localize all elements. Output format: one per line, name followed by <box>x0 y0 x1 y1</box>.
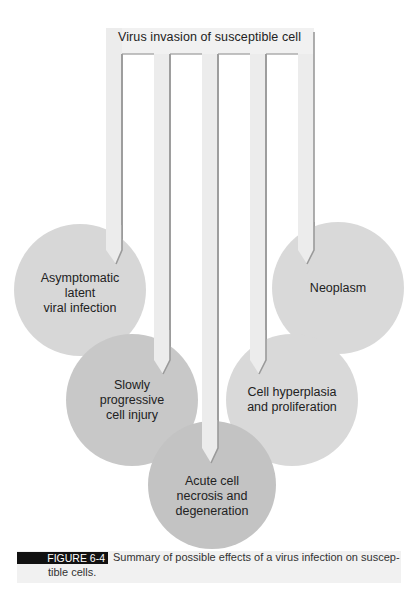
label-line: and proliferation <box>227 400 357 415</box>
caption-text-line-2: tible cells. <box>48 566 96 578</box>
label-line: degeneration <box>152 504 272 519</box>
label-line: cell injury <box>72 408 192 423</box>
label-line: Asymptomatic <box>20 271 140 286</box>
label-slowly-progressive: Slowly progressive cell injury <box>72 378 192 423</box>
label-line: viral infection <box>20 301 140 316</box>
label-neoplasm: Neoplasm <box>278 281 398 296</box>
label-hyperplasia: Cell hyperplasia and proliferation <box>227 385 357 415</box>
label-line: necrosis and <box>152 489 272 504</box>
label-line: Neoplasm <box>278 281 398 296</box>
label-line: progressive <box>72 393 192 408</box>
source-label: Virus invasion of susceptible cell <box>118 30 301 44</box>
caption-text-line-1: Summary of possible effects of a virus i… <box>113 551 400 563</box>
figure-number-tag: FIGURE 6-4 <box>17 552 108 564</box>
label-line: Cell hyperplasia <box>227 385 357 400</box>
label-line: Slowly <box>72 378 192 393</box>
figure-caption: FIGURE 6-4 Summary of possible effects o… <box>17 551 401 583</box>
label-acute-necrosis: Acute cell necrosis and degeneration <box>152 474 272 519</box>
label-line: Acute cell <box>152 474 272 489</box>
virus-effects-diagram: Virus invasion of susceptible cell Asymp… <box>0 0 418 603</box>
label-asymptomatic: Asymptomatic latent viral infection <box>20 271 140 316</box>
label-line: latent <box>20 286 140 301</box>
